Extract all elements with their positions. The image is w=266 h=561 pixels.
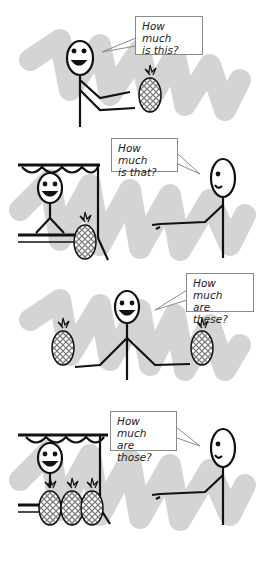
bubble-line-1: How much (117, 415, 170, 439)
bubble-line-2: is this? (142, 44, 196, 56)
speech-bubble-these: How much are these? (186, 273, 254, 312)
panel-this: How much is this? (0, 0, 266, 135)
bubble-line-1: How much (193, 277, 247, 301)
panel-these: How much are these? (0, 260, 266, 405)
speech-bubble-that: How much is that? (111, 138, 178, 172)
bubble-line-2: are those? (117, 439, 170, 463)
speech-bubble-those: How much are those? (110, 411, 177, 451)
panel-that: How much is that? (0, 130, 266, 270)
bubble-line-1: How much (142, 20, 196, 44)
bubble-line-1: How much (118, 142, 171, 166)
scene-this (0, 0, 266, 135)
bubble-line-2: are these? (193, 301, 247, 325)
speech-bubble-this: How much is this? (135, 16, 203, 55)
bubble-line-2: is that? (118, 166, 171, 178)
panel-those: How much are those? (0, 400, 266, 561)
